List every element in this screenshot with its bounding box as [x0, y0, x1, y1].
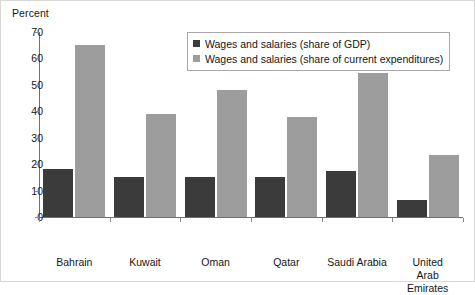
y-axis-tick-mark	[35, 191, 39, 192]
x-axis-tick-mark	[463, 218, 464, 222]
y-axis-title: Percent	[12, 7, 49, 19]
x-axis-tick-mark	[180, 218, 181, 222]
bar	[326, 171, 356, 217]
legend-item-label: Wages and salaries (share of GDP)	[205, 38, 370, 50]
x-axis-category-label: Kuwait	[129, 256, 161, 269]
bar	[114, 177, 144, 217]
x-axis-tick-mark	[110, 218, 111, 222]
x-axis-category-label: Qatar	[273, 256, 299, 269]
y-axis-tick-mark	[35, 85, 39, 86]
bar	[397, 200, 427, 217]
legend-swatch-icon	[193, 55, 200, 62]
legend-item: Wages and salaries (share of GDP)	[193, 36, 443, 51]
legend-item-label: Wages and salaries (share of current exp…	[205, 53, 443, 65]
legend-swatch-icon	[193, 40, 200, 47]
bar	[75, 45, 105, 217]
legend-item: Wages and salaries (share of current exp…	[193, 51, 443, 66]
y-axis-tick-mark	[35, 111, 39, 112]
bar	[287, 117, 317, 217]
x-axis-tick-mark	[322, 218, 323, 222]
bar	[146, 114, 176, 217]
bar	[217, 90, 247, 217]
x-axis-tick-mark	[39, 218, 40, 222]
bar	[185, 177, 215, 217]
bar	[358, 73, 388, 217]
y-axis-tick-mark	[35, 58, 39, 59]
x-axis-tick-mark	[251, 218, 252, 222]
x-axis-tick-mark	[392, 218, 393, 222]
x-axis-category-label: Bahrain	[56, 256, 92, 269]
bar	[43, 169, 73, 217]
x-axis-category-label: United Arab Emirates	[407, 256, 448, 295]
y-axis-tick-mark	[35, 32, 39, 33]
bar	[255, 177, 285, 217]
x-axis-category-label: Oman	[201, 256, 230, 269]
bar	[429, 155, 459, 217]
y-axis-tick-mark	[35, 138, 39, 139]
x-axis-category-label: Saudi Arabia	[327, 256, 387, 269]
chart-legend: Wages and salaries (share of GDP) Wages …	[187, 32, 450, 71]
y-axis-tick-mark	[35, 164, 39, 165]
